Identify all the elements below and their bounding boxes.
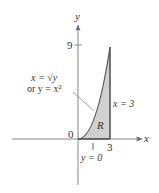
- y-axis-label: y: [74, 10, 80, 22]
- region-r: [78, 47, 110, 139]
- bottom-boundary-label: y = 0: [80, 152, 102, 163]
- x-tick-label: 3: [107, 141, 113, 153]
- y-tick-label: 9: [67, 39, 73, 51]
- x-axis-label: x: [143, 132, 149, 144]
- origin-label: 0: [68, 128, 74, 140]
- region-diagram: y 9 0 3 x x = √y or y = x² R x = 3 y = 0: [0, 0, 159, 193]
- curve-label-line2: or y = x²: [27, 83, 61, 94]
- right-boundary-label: x = 3: [112, 98, 134, 109]
- curve-label-line1: x = √y: [30, 72, 58, 83]
- region-label: R: [96, 119, 104, 131]
- curve-label-leader: [73, 92, 94, 111]
